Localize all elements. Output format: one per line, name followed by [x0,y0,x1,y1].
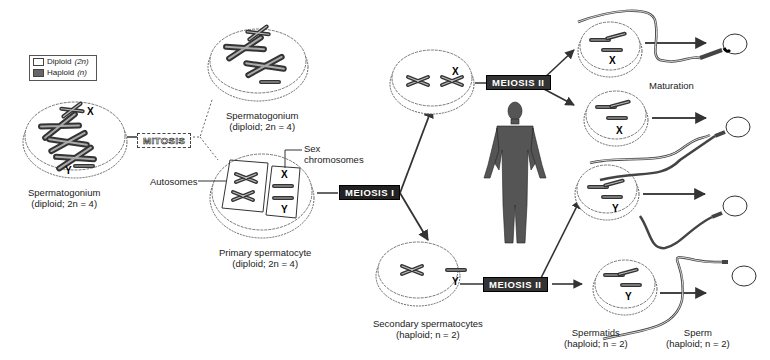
diploid-swatch-icon [33,58,44,66]
svg-text:Y: Y [281,204,288,215]
svg-text:X: X [616,125,623,136]
secondary-spermatocytes-label: Secondary spermatocytes (haploid; n = 2) [373,318,483,340]
meiosis-2-top-label: MEIOSIS II [486,75,551,90]
svg-text:X: X [452,66,459,77]
cell-spermatogonium-top [208,27,308,101]
spermatogonium-top-label: Spermatogonium (diploid; 2n = 4) [226,110,298,132]
cell-spermatogonium-left: X Y [23,102,127,178]
sperm-icon [722,262,756,286]
mitosis-label: MITOSIS [137,133,191,148]
meiosis-1-label: MEIOSIS I [339,185,400,200]
diagram-graphics: X Y X Y X [0,0,770,360]
autosomes-label: Autosomes [150,176,198,187]
svg-text:Y: Y [612,203,619,214]
chromosome-label-x: X [87,106,94,117]
spermatids-label: Spermatids (haploid; n = 2) [564,327,628,349]
svg-text:Y: Y [452,276,459,287]
sperm-icon [640,196,747,248]
legend-item-diploid: Diploid (2n) [33,56,93,67]
chromosome-label-y: Y [65,165,72,176]
cell-spermatid-4: Y [593,260,657,315]
cell-secondary-spermatocyte-bottom: Y [376,242,465,306]
sex-chromosomes-label: Sex chromosomes [304,143,364,165]
svg-text:Y: Y [625,291,632,302]
sperm-icon [700,34,747,58]
spermatogonium-left-label: Spermatogonium (diploid; 2n = 4) [28,187,100,209]
cell-spermatid-2: X [584,91,648,146]
haploid-swatch-icon [33,69,44,77]
svg-text:X: X [281,169,288,180]
cell-spermatid-1: X [578,22,642,77]
primary-spermatocyte-label: Primary spermatocyte (diploid; 2n = 4) [219,247,311,269]
maturation-label: Maturation [649,80,694,91]
sperm-label: Sperm (haploid; n = 2) [666,327,730,349]
cell-spermatid-3: Y [575,165,639,220]
human-figure-icon [484,102,546,243]
legend: Diploid (2n) Haploid (n) [29,55,97,81]
meiosis-2-bottom-label: MEIOSIS II [483,277,548,292]
cell-primary-spermatocyte: X Y [198,150,314,238]
cell-secondary-spermatocyte-top: X [390,50,474,114]
legend-item-haploid: Haploid (n) [33,67,93,78]
svg-text:X: X [609,55,616,66]
